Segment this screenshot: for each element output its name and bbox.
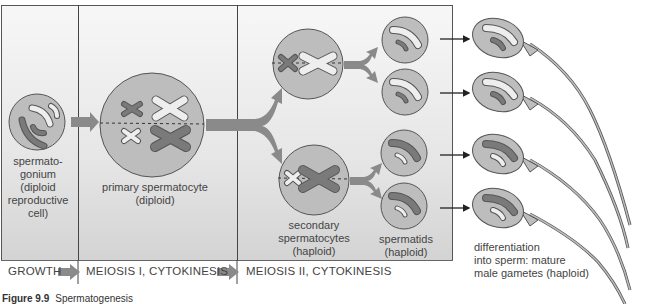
spermatids-label: spermatids (haploid) bbox=[374, 233, 438, 259]
caption-text: Spermatogenesis bbox=[55, 293, 133, 304]
secondary-spermatocytes-label: secondary spermatocytes (haploid) bbox=[272, 219, 356, 258]
secondary-spermatocyte-cell-bottom bbox=[278, 145, 350, 215]
label-line: (haploid) bbox=[272, 245, 356, 258]
sperm-label: differentiation into sperm: mature male … bbox=[474, 241, 589, 280]
stage-meiosis-1: MEIOSIS I, CYTOKINESIS bbox=[86, 265, 228, 277]
stage-growth: GROWTH bbox=[8, 265, 62, 277]
spermatid-cell-4 bbox=[381, 183, 427, 229]
label-line: gonium bbox=[6, 168, 70, 181]
fork-arrow-icon bbox=[206, 88, 282, 164]
spermatogonium-label: spermato- gonium (diploid reproductive c… bbox=[6, 155, 70, 220]
label-line: spermato- bbox=[6, 155, 70, 168]
spermatid-cell-1 bbox=[382, 17, 428, 63]
label-line: (haploid) bbox=[374, 246, 438, 259]
label-line: cell) bbox=[6, 207, 70, 220]
label-line: reproductive bbox=[6, 194, 70, 207]
label-line: spermatids bbox=[374, 233, 438, 246]
label-line: (diploid) bbox=[100, 194, 210, 207]
fork-arrow-icon bbox=[344, 47, 378, 83]
label-line: (diploid bbox=[6, 181, 70, 194]
label-line: into sperm: mature bbox=[474, 254, 589, 267]
spermatogonium-cell bbox=[9, 94, 65, 150]
label-line: male gametes (haploid) bbox=[474, 267, 589, 280]
figure-caption: Figure 9.9Spermatogenesis bbox=[2, 293, 133, 304]
primary-spermatocyte-label: primary spermatocyte (diploid) bbox=[100, 181, 210, 207]
secondary-spermatocyte-cell-top bbox=[272, 29, 344, 99]
spermatid-cell-2 bbox=[382, 69, 428, 115]
caption-label: Figure 9.9 bbox=[2, 293, 49, 304]
spermatid-cell-3 bbox=[381, 130, 427, 176]
label-line: primary spermatocyte bbox=[100, 181, 210, 194]
label-line: differentiation bbox=[474, 241, 589, 254]
label-line: spermatocytes bbox=[272, 232, 356, 245]
primary-spermatocyte-cell bbox=[100, 73, 204, 177]
stage-meiosis-2: MEIOSIS II, CYTOKINESIS bbox=[246, 265, 392, 277]
arrow-icon bbox=[71, 112, 99, 132]
label-line: secondary bbox=[272, 219, 356, 232]
fork-arrow-icon bbox=[350, 163, 382, 199]
arrow-icon bbox=[440, 39, 469, 208]
